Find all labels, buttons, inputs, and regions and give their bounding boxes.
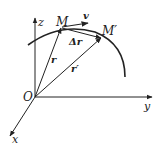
r-label: r	[51, 54, 57, 65]
origin-label: O	[23, 90, 33, 104]
velocity-label: v	[83, 10, 89, 21]
delta-r-label: Δr	[68, 36, 83, 47]
point-M-prime-label: M′	[101, 24, 117, 38]
y-axis-label: y	[143, 100, 151, 113]
z-axis-label: z	[37, 16, 44, 29]
r-prime-vector	[35, 38, 101, 97]
kinematics-diagram: z y x O M M′ v Δr r r′	[0, 0, 168, 144]
x-axis-label: x	[12, 133, 19, 144]
r-prime-label: r′	[71, 63, 79, 74]
point-M-label: M	[55, 15, 69, 29]
